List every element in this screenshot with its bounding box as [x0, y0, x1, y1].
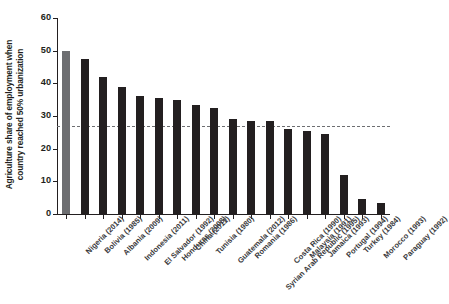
y-tick-label: 50 — [41, 46, 51, 55]
y-tick-mark — [53, 149, 57, 150]
bar — [118, 87, 126, 214]
bar — [210, 108, 218, 214]
y-tick-mark — [53, 18, 57, 19]
y-tick-label: 40 — [41, 79, 51, 88]
bar — [155, 98, 163, 214]
bar — [284, 129, 292, 214]
bar — [136, 96, 144, 214]
y-axis-title-line-2: country reached 50% urbanization — [15, 39, 26, 189]
y-axis-title: Agriculture share of employment when cou… — [0, 0, 30, 228]
bar — [321, 134, 329, 214]
bar — [266, 121, 274, 214]
bar — [99, 77, 107, 214]
y-tick-label: 20 — [41, 144, 51, 153]
y-tick-label: 60 — [41, 13, 51, 22]
y-tick-label: 0 — [46, 209, 51, 218]
x-axis-labels: Nigeria (2014)Bolivia (1985)Albania (200… — [57, 215, 407, 304]
bar — [247, 121, 255, 214]
bar — [62, 51, 70, 214]
y-axis-line — [57, 18, 58, 215]
y-tick-mark — [53, 181, 57, 182]
bar — [192, 105, 200, 214]
y-axis-title-line-1: Agriculture share of employment when — [5, 39, 16, 189]
y-tick-mark — [53, 51, 57, 52]
bar — [377, 203, 385, 214]
bar — [340, 175, 348, 214]
plot-area: 0102030405060 — [57, 18, 390, 215]
bar — [358, 199, 366, 214]
bar — [229, 119, 237, 214]
y-tick-mark — [53, 83, 57, 84]
y-tick-label: 30 — [41, 111, 51, 120]
y-tick-mark — [53, 116, 57, 117]
bar — [81, 59, 89, 214]
bar — [173, 100, 181, 214]
y-tick-label: 10 — [41, 177, 51, 186]
bar — [303, 131, 311, 214]
